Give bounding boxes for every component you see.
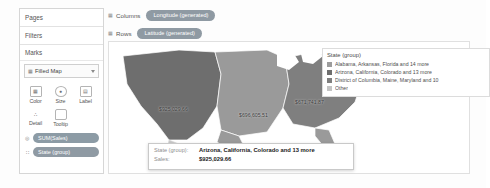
size-icon: ● [55, 86, 67, 97]
filled-map-icon: ▦ [28, 68, 33, 74]
marks-pill-row: ◎ SUM(Sales) [24, 133, 99, 143]
mark-property-detail-label: Detail [29, 120, 42, 126]
rows-shelf-label-wrap: ▦ Rows [108, 30, 131, 37]
map-tooltip: State (group): Arizona, California, Colo… [148, 143, 354, 170]
detail-pill-icon: ∷ [24, 149, 30, 155]
marks-label: Marks [25, 49, 42, 56]
legend-swatch [327, 62, 332, 67]
tooltip-value: $925,029.66 [199, 156, 231, 162]
grid-icon: ▦ [108, 30, 113, 36]
pill-sum-sales[interactable]: SUM(Sales) [33, 133, 99, 143]
mark-type-dropdown[interactable]: ▦ Filled Map [24, 64, 99, 78]
legend-item-label: District of Columbia, Maine, Maryland an… [335, 77, 439, 83]
mark-property-size[interactable]: ● Size [48, 83, 73, 106]
tooltip-key: Sales: [154, 156, 196, 162]
mark-property-detail[interactable]: ∴ Detail [23, 106, 48, 129]
pages-shelf-label: Pages [25, 14, 43, 21]
rows-shelf[interactable]: ▦ Rows Latitude (generated) [108, 26, 202, 40]
legend-item[interactable]: Arizona, California, Colorado and 13 mor… [327, 68, 485, 76]
marks-pills: ◎ SUM(Sales) ∷ State (group) [20, 129, 103, 157]
map-label-value: $696,605.51 [239, 112, 268, 118]
columns-shelf-label-wrap: ▦ Columns [108, 12, 140, 19]
mark-type-label: Filled Map [35, 68, 62, 74]
tooltip-key: State (group): [154, 147, 196, 153]
mark-properties: ▦ Color ● Size ▤ Label ∴ Detail Tooltip [20, 82, 103, 129]
mark-property-tooltip-label: Tooltip [53, 121, 68, 127]
filters-shelf-label: Filters [25, 32, 42, 39]
tooltip-value: Arizona, California, Colorado and 13 mor… [199, 147, 315, 153]
mark-property-color[interactable]: ▦ Color [23, 83, 48, 106]
pill-longitude[interactable]: Longitude (generated) [146, 10, 215, 21]
map-label-value: $671,741.87 [295, 99, 324, 105]
detail-icon: ∴ [31, 110, 41, 119]
legend-item-label: Other [335, 85, 348, 91]
legend-title: State (group) [327, 52, 485, 58]
pill-state-group[interactable]: State (group) [33, 147, 99, 157]
legend-item[interactable]: District of Columbia, Maine, Maryland an… [327, 76, 485, 84]
mark-property-label-label: Label [79, 98, 91, 104]
pages-shelf[interactable]: Pages [20, 9, 103, 27]
legend-item[interactable]: Other [327, 84, 485, 92]
map-label-value: $925,029.66 [159, 106, 188, 112]
grid-icon: ▦ [108, 12, 113, 18]
pill-latitude[interactable]: Latitude (generated) [137, 28, 201, 39]
chevron-down-icon [91, 70, 95, 73]
columns-shelf[interactable]: ▦ Columns Longitude (generated) [108, 8, 215, 22]
columns-shelf-label: Columns [116, 12, 140, 19]
legend-swatch [327, 78, 332, 83]
legend-swatch [327, 86, 332, 91]
label-icon: ▤ [80, 86, 92, 97]
map-region-west [123, 50, 221, 140]
legend-item-label: Arizona, California, Colorado and 13 mor… [335, 69, 432, 75]
mark-property-tooltip[interactable]: Tooltip [48, 106, 73, 129]
tooltip-icon [55, 109, 67, 120]
mark-property-size-label: Size [56, 98, 66, 104]
rows-shelf-label: Rows [116, 30, 131, 37]
tooltip-row: State (group): Arizona, California, Colo… [154, 147, 348, 156]
color-pill-icon: ◎ [24, 135, 30, 141]
tooltip-row: Sales: $925,029.66 [154, 156, 348, 165]
mark-property-label[interactable]: ▤ Label [73, 83, 98, 106]
filters-shelf[interactable]: Filters [20, 27, 103, 45]
marks-pill-row: ∷ State (group) [24, 147, 99, 157]
color-legend[interactable]: State (group) Alabama, Arkansas, Florida… [322, 48, 490, 97]
legend-swatch [327, 70, 332, 75]
mark-property-color-label: Color [29, 98, 41, 104]
color-palette-icon: ▦ [30, 86, 42, 97]
legend-item-label: Alabama, Arkansas, Florida and 14 more [335, 61, 429, 67]
marks-shelf-panel: Pages Filters Marks ▦ Filled Map ▦ Color… [19, 8, 104, 174]
marks-card-header: Marks [20, 45, 103, 61]
legend-item[interactable]: Alabama, Arkansas, Florida and 14 more [327, 60, 485, 68]
